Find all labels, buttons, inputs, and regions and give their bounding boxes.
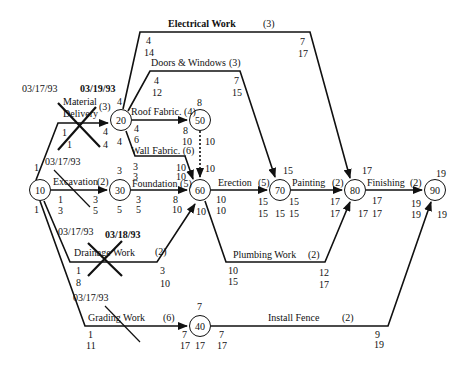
dur-painting: (2) — [332, 178, 344, 188]
label-drainage: Drainage Work — [74, 248, 135, 258]
time: 15 — [258, 209, 268, 219]
time: 15 — [289, 209, 299, 219]
time: 1 — [76, 266, 81, 276]
node-70: 70 — [269, 179, 291, 201]
time: 7 — [300, 37, 305, 47]
time: 17 — [180, 341, 190, 351]
node-10-time-above: 1 — [34, 163, 39, 173]
time: 15 — [258, 197, 268, 207]
time: 1 — [88, 330, 93, 340]
arrow-install-fence — [211, 202, 431, 326]
node-60-time-above: 10 — [205, 164, 215, 174]
node-90-time-above: 19 — [436, 169, 446, 179]
time: 17 — [330, 197, 340, 207]
node-40: 40 — [189, 315, 211, 337]
time: 8 — [76, 278, 81, 288]
node-70-time-above: 15 — [283, 166, 293, 176]
time: 17 — [372, 209, 382, 219]
time: 1 — [58, 195, 63, 205]
dur-install-fence: (2) — [342, 313, 354, 323]
time: 15 — [228, 277, 238, 287]
time: 10 — [228, 266, 238, 276]
time: 3 — [58, 206, 63, 216]
node-10-time-below: 1 — [34, 205, 39, 215]
date-drainage-done: 03/18/93 — [105, 230, 141, 240]
time: 4 — [103, 127, 108, 137]
node-90: 90 — [424, 179, 446, 201]
node-20-time-left-upper: 4 — [117, 97, 122, 107]
time: 10 — [216, 206, 226, 216]
time: 3 — [133, 172, 138, 182]
node-80-time-above: 17 — [362, 166, 372, 176]
time: 5 — [93, 206, 98, 216]
time: 7 — [182, 330, 187, 340]
label-painting: Painting — [292, 178, 325, 188]
label-grading: Grading Work — [88, 313, 145, 323]
arrow-grading — [40, 201, 187, 326]
label-roof: Roof Fabric. (4) — [131, 107, 196, 117]
node-30: 30 — [109, 179, 131, 201]
time: 10 — [160, 279, 170, 289]
time: 4 — [103, 140, 108, 150]
dur-material: (3) — [99, 102, 111, 112]
date-drainage-start: 03/17/93 — [58, 227, 94, 237]
time: 17 — [298, 49, 308, 59]
dur-drainage: (2) — [155, 247, 167, 257]
label-erection: Erection — [218, 178, 252, 188]
dur-finishing: (2) — [410, 178, 422, 188]
time: 4 — [154, 76, 159, 86]
date-material-done: 03/19/93 — [80, 84, 116, 94]
time: 10 — [216, 195, 226, 205]
time: 6 — [134, 135, 139, 145]
node-90-time-below: 19 — [437, 210, 447, 220]
node-60: 60 — [189, 179, 211, 201]
time: 14 — [144, 48, 154, 58]
label-install-fence: Install Fence — [268, 313, 319, 323]
label-wall: Wall Fabric. (6) — [131, 146, 194, 156]
time: 19 — [411, 210, 421, 220]
arrow-material-delivery — [36, 123, 108, 180]
time: 10 — [172, 205, 182, 215]
date-excavation: 03/17/93 — [45, 157, 81, 167]
label-material: Material — [63, 97, 97, 107]
dur-doors-windows: (3) — [229, 58, 241, 68]
node-20-time-left-lower: 4 — [117, 137, 122, 147]
time: 11 — [86, 341, 96, 351]
time: 19 — [374, 340, 384, 350]
dur-excavation: (2) — [97, 177, 109, 187]
dur-grading: (6) — [163, 313, 175, 323]
time: 7 — [234, 76, 239, 86]
label-finishing: Finishing — [367, 178, 405, 188]
label-plumbing: Plumbing Work — [233, 250, 296, 260]
node-50-time-right: 10 — [205, 137, 215, 147]
node-40-time-above: 7 — [197, 302, 202, 312]
time: 8 — [183, 126, 188, 136]
dur-plumbing: (2) — [308, 250, 320, 260]
node-30-time-above: 3 — [117, 166, 122, 176]
time: 4 — [146, 36, 151, 46]
dur-electrical: (3) — [263, 19, 275, 29]
time: 15 — [232, 88, 242, 98]
date-material-start: 03/17/93 — [22, 84, 58, 94]
node-70-time-below: 15 — [275, 209, 285, 219]
time: 1 — [62, 128, 67, 138]
time: 19 — [411, 199, 421, 209]
time: 17 — [319, 280, 329, 290]
time: 12 — [319, 268, 329, 278]
node-30-time-below: 5 — [117, 205, 122, 215]
label-electrical: Electrical Work — [168, 19, 236, 29]
node-40-time-below: 17 — [195, 341, 205, 351]
time: 1 — [67, 140, 72, 150]
time: 4 — [134, 124, 139, 134]
time: 3 — [160, 266, 165, 276]
time: 17 — [372, 196, 382, 206]
node-80: 80 — [344, 179, 366, 201]
label-delivery: Delivery — [63, 109, 98, 119]
label-excavation: Excavation — [53, 177, 98, 187]
dur-erection: (5) — [258, 178, 270, 188]
node-60-time-below: 10 — [196, 207, 206, 217]
time: 17 — [217, 341, 227, 351]
time: 3 — [93, 195, 98, 205]
time: 17 — [330, 209, 340, 219]
time: 10 — [182, 137, 192, 147]
